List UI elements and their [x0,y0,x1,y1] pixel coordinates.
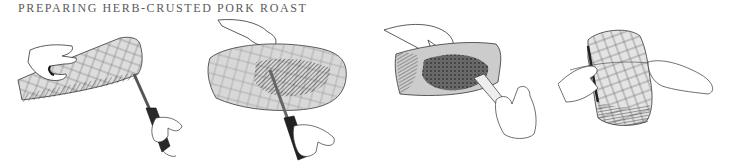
illustration-step-3 [378,18,548,158]
roast-spreading-herbs-illustration [378,18,548,158]
illustration-step-1 [10,28,195,168]
page-title: Preparing Herb-Crusted Pork Roast [18,1,307,16]
illustration-step-2 [198,18,363,168]
roast-tying-twine-illustration [558,18,729,158]
roast-knife-illustration [10,28,195,168]
roast-pocket-knife-illustration [198,18,363,168]
illustration-step-4 [558,18,729,158]
